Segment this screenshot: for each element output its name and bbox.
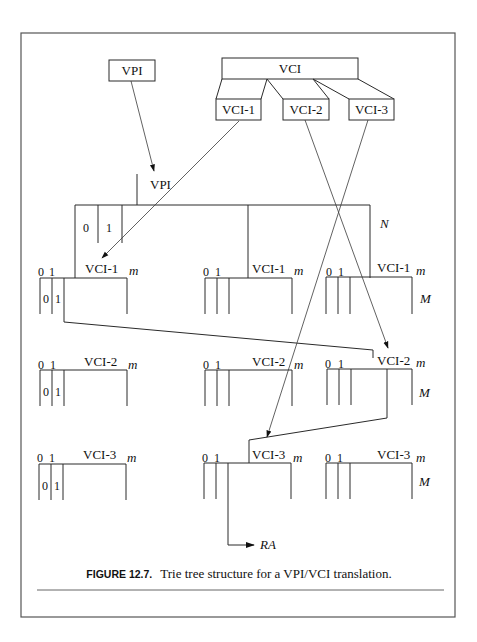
figure-caption: FIGURE 12.7. Trie tree structure for a V… <box>37 564 444 590</box>
vci-2-subfield: VCI-2 <box>283 99 329 120</box>
vci-field-label: VCI <box>279 61 301 76</box>
svg-text:m: m <box>293 450 302 465</box>
svg-text:VCI-1: VCI-1 <box>85 261 118 276</box>
vci-2-arrow <box>305 120 388 348</box>
svg-text:M: M <box>418 385 431 400</box>
svg-text:m: m <box>294 263 303 278</box>
vpi-field-box: VPI <box>109 60 155 81</box>
vci-1-node-left: 0 1 VCI-1 m 0 1 <box>38 261 138 314</box>
ra-result-pointer: RA <box>228 499 276 552</box>
svg-text:1: 1 <box>49 451 55 465</box>
vci-3-subfield: VCI-3 <box>349 99 394 120</box>
svg-text:m: m <box>416 450 425 465</box>
svg-text:VCI-3: VCI-3 <box>252 447 285 462</box>
svg-text:1: 1 <box>215 265 221 279</box>
svg-text:0: 0 <box>43 292 49 306</box>
svg-text:VCI-2: VCI-2 <box>289 102 322 117</box>
vpi-arrow <box>131 81 154 171</box>
root-size-N: N <box>379 216 390 231</box>
trie-diagram: VPI VCI VCI-1 VCI-2 VCI-3 VPI 0 1 N 0 <box>0 0 477 642</box>
svg-text:m: m <box>128 357 137 372</box>
root-vpi-node: VPI 0 1 N <box>75 174 390 278</box>
svg-text:VCI-1: VCI-1 <box>377 260 410 275</box>
svg-text:0: 0 <box>203 265 209 279</box>
vci-3-node-right: 0 1 VCI-3 m M <box>325 447 431 499</box>
svg-text:FIGURE 12.7. Trie tree s: FIGURE 12.7. Trie tree structure for a V… <box>86 564 391 581</box>
svg-text:VCI-3: VCI-3 <box>377 447 410 462</box>
svg-text:m: m <box>294 357 303 372</box>
svg-text:m: m <box>127 450 136 465</box>
svg-text:VCI-2: VCI-2 <box>377 353 410 368</box>
ra-label: RA <box>259 537 276 552</box>
root-vpi-label: VPI <box>150 177 171 192</box>
svg-text:VCI-2: VCI-2 <box>252 354 285 369</box>
vci-1-arrow <box>102 121 239 258</box>
svg-text:0: 0 <box>38 265 44 279</box>
svg-text:M: M <box>418 474 431 489</box>
svg-text:m: m <box>416 263 425 278</box>
figure-frame <box>21 33 455 617</box>
caption-text: Trie tree structure for a VPI/VCI transl… <box>160 566 391 581</box>
vci-2-node-right: 0 1 VCI-2 m M <box>325 353 431 418</box>
svg-text:M: M <box>419 291 432 306</box>
svg-text:1: 1 <box>55 292 61 306</box>
vpi-field-label: VPI <box>122 63 143 78</box>
svg-text:VCI-3: VCI-3 <box>355 102 388 117</box>
svg-text:VCI-2: VCI-2 <box>84 354 117 369</box>
svg-text:1: 1 <box>106 221 112 235</box>
svg-text:m: m <box>129 263 138 278</box>
vci-1-node-right: 0 1 VCI-1 m M <box>326 260 432 314</box>
svg-text:m: m <box>416 355 425 370</box>
vci-3-node-middle: 0 1 VCI-3 m <box>202 447 302 499</box>
vci-2-node-middle: 0 1 VCI-2 m <box>203 354 303 406</box>
svg-text:VCI-1: VCI-1 <box>252 261 285 276</box>
vci-1-subfield: VCI-1 <box>216 99 261 120</box>
svg-text:0: 0 <box>42 479 48 493</box>
svg-text:1: 1 <box>55 385 61 399</box>
svg-text:0: 0 <box>83 221 89 235</box>
vci-field-box: VCI <box>222 58 358 79</box>
svg-text:1: 1 <box>49 265 55 279</box>
vci-2-node-left: 0 1 VCI-2 m 0 1 <box>38 354 137 406</box>
svg-text:1: 1 <box>54 479 60 493</box>
caption-label: FIGURE 12.7. <box>86 568 152 580</box>
svg-text:VCI-1: VCI-1 <box>222 102 255 117</box>
vci-1-node-middle: 0 1 VCI-1 m <box>203 261 303 314</box>
svg-text:0: 0 <box>43 385 49 399</box>
svg-text:VCI-3: VCI-3 <box>83 447 116 462</box>
svg-text:0: 0 <box>37 451 43 465</box>
vci-3-node-left: 0 1 VCI-3 m 0 1 <box>37 447 136 500</box>
